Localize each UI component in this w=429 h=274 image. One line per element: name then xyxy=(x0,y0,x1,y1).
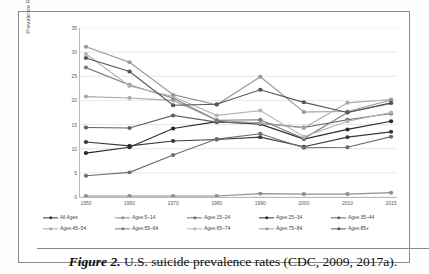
y-axis-title: Prevalence Rate per 100,000 xyxy=(25,0,31,56)
y-axis-tick-label: 35 xyxy=(71,25,77,31)
legend-swatch-icon xyxy=(43,214,58,221)
legend-item[interactable]: Ages 35–44 xyxy=(331,212,403,223)
legend-label: Ages 25–34 xyxy=(276,215,302,220)
legend-swatch-icon xyxy=(43,225,58,232)
data-point xyxy=(345,192,349,196)
data-point xyxy=(389,119,393,123)
data-point xyxy=(258,118,262,122)
data-point xyxy=(389,101,393,105)
legend-item[interactable]: Ages 15–24 xyxy=(187,212,259,223)
data-point xyxy=(127,69,131,73)
series-line xyxy=(86,113,391,127)
data-point xyxy=(345,111,349,115)
data-point xyxy=(258,109,262,113)
legend-item[interactable]: Ages 85+ xyxy=(331,223,403,234)
x-axis-tick-label: 1970 xyxy=(168,200,179,206)
data-point xyxy=(302,100,306,104)
data-point xyxy=(302,135,306,139)
data-point xyxy=(258,75,262,79)
y-axis-tick-label: 5 xyxy=(74,170,77,176)
series-line xyxy=(86,134,391,176)
figure-caption-text: U.S. suicide prevalence rates (CDC, 2009… xyxy=(121,254,398,269)
data-point xyxy=(84,125,88,129)
figure-frame: Prevalence Rate per 100,000 051015202530… xyxy=(18,11,410,263)
legend-item[interactable]: Ages 75–84 xyxy=(259,223,331,234)
data-point xyxy=(258,192,262,196)
legend-row-2: Ages 45–54Ages 55–64Ages 65–74Ages 75–84… xyxy=(43,223,403,234)
data-point xyxy=(84,140,88,144)
series-line xyxy=(86,47,391,112)
legend-label: Ages 75–84 xyxy=(276,226,302,231)
data-point xyxy=(302,192,306,196)
figure-caption: Figure 2. U.S. suicide prevalence rates … xyxy=(69,254,397,270)
data-point xyxy=(84,174,88,178)
data-point xyxy=(215,118,219,122)
data-point xyxy=(345,101,349,105)
legend-item[interactable]: Ages 5–14 xyxy=(115,212,187,223)
data-point xyxy=(84,151,88,155)
legend-swatch-icon xyxy=(259,225,274,232)
legend-swatch-icon xyxy=(115,225,130,232)
data-point xyxy=(215,137,219,141)
chart-legend: All AgesAges 5–14Ages 15–24Ages 25–34Age… xyxy=(43,212,403,238)
legend-label: Ages 55–64 xyxy=(132,226,158,231)
legend-swatch-icon xyxy=(259,214,274,221)
data-point xyxy=(127,84,131,88)
data-point xyxy=(84,194,88,197)
legend-label: Ages 15–24 xyxy=(204,215,230,220)
data-point xyxy=(84,66,88,70)
data-point xyxy=(127,60,131,64)
data-point xyxy=(84,52,88,56)
x-axis-tick-label: 1980 xyxy=(211,200,222,206)
legend-label: Ages 85+ xyxy=(348,226,369,231)
data-point xyxy=(215,102,219,106)
data-point xyxy=(127,126,131,130)
x-axis-tick-label: 1990 xyxy=(255,200,266,206)
y-axis-tick-label: 20 xyxy=(71,97,77,103)
data-point xyxy=(345,145,349,149)
y-axis-tick-label: 25 xyxy=(71,73,77,79)
x-axis-tick-label: 2000 xyxy=(298,200,309,206)
data-point xyxy=(389,191,393,195)
plot-area: 0510152025303519501960197019801990200020… xyxy=(79,28,397,198)
data-point xyxy=(127,194,131,197)
legend-label: Ages 45–54 xyxy=(60,226,86,231)
legend-item[interactable]: Ages 55–64 xyxy=(115,223,187,234)
data-point xyxy=(389,111,393,115)
x-axis-tick-label: 1950 xyxy=(80,200,91,206)
legend-item[interactable]: Ages 45–54 xyxy=(43,223,115,234)
data-point xyxy=(345,135,349,139)
data-point xyxy=(171,153,175,157)
legend-row-1: All AgesAges 5–14Ages 15–24Ages 25–34Age… xyxy=(43,212,403,223)
x-axis-tick-label: 2015 xyxy=(385,200,396,206)
legend-item[interactable]: Ages 65–74 xyxy=(187,223,259,234)
data-point xyxy=(345,127,349,131)
data-point xyxy=(389,135,393,139)
legend-swatch-icon xyxy=(331,225,346,232)
figure-number: Figure 2. xyxy=(69,254,121,269)
data-point xyxy=(171,113,175,117)
legend-swatch-icon xyxy=(187,225,202,232)
y-axis-tick-label: 10 xyxy=(71,146,77,152)
data-point xyxy=(258,132,262,136)
legend-item[interactable]: All Ages xyxy=(43,212,115,223)
data-point xyxy=(171,103,175,107)
legend-item[interactable]: Ages 25–34 xyxy=(259,212,331,223)
data-point xyxy=(127,170,131,174)
data-point xyxy=(215,194,219,197)
data-point xyxy=(171,194,175,197)
data-point xyxy=(84,95,88,99)
line-chart-svg xyxy=(80,28,397,197)
legend-swatch-icon xyxy=(331,214,346,221)
data-point xyxy=(215,113,219,117)
series-line xyxy=(86,68,391,139)
series-line xyxy=(86,193,391,196)
data-point xyxy=(302,126,306,130)
data-point xyxy=(302,146,306,150)
y-axis-tick-label: 15 xyxy=(71,122,77,128)
data-point xyxy=(84,56,88,60)
data-point xyxy=(171,126,175,130)
x-axis-tick-label: 2010 xyxy=(342,200,353,206)
chart-container: Prevalence Rate per 100,000 051015202530… xyxy=(37,18,405,218)
